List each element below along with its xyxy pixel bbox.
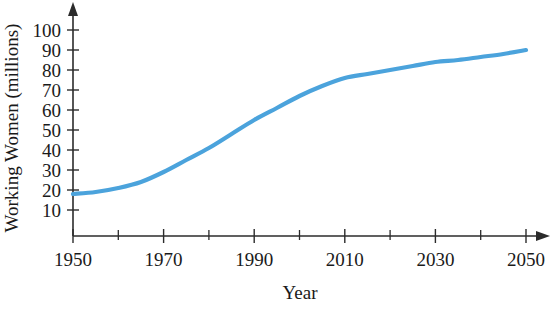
y-axis (68, 2, 78, 236)
x-tick-label: 2010 (326, 249, 364, 270)
chart-container: 102030405060708090100 195019701990201020… (0, 0, 558, 310)
y-axis-tick-labels: 102030405060708090100 (33, 20, 62, 221)
x-axis-title: Year (282, 282, 318, 303)
y-tick-label: 20 (42, 180, 61, 201)
y-tick-label: 80 (42, 60, 61, 81)
y-tick-label: 60 (42, 100, 61, 121)
y-axis-title: Working Women (millions) (1, 24, 23, 233)
x-tick-label: 2050 (507, 249, 545, 270)
y-tick-label: 40 (42, 140, 61, 161)
line-chart: 102030405060708090100 195019701990201020… (0, 0, 558, 310)
x-axis-tick-labels: 195019701990201020302050 (54, 249, 545, 270)
x-tick-label: 1970 (145, 249, 183, 270)
y-axis-arrowhead (68, 2, 78, 16)
y-tick-label: 30 (42, 160, 61, 181)
y-tick-label: 50 (42, 120, 61, 141)
x-tick-label: 1990 (235, 249, 273, 270)
x-tick-label: 2030 (416, 249, 454, 270)
data-series-line (73, 50, 526, 194)
y-tick-label: 90 (42, 40, 61, 61)
y-tick-label: 10 (42, 200, 61, 221)
x-tick-label: 1950 (54, 249, 92, 270)
y-tick-label: 70 (42, 80, 61, 101)
x-axis (73, 231, 550, 241)
y-tick-label: 100 (33, 20, 62, 41)
x-axis-arrowhead (536, 231, 550, 241)
